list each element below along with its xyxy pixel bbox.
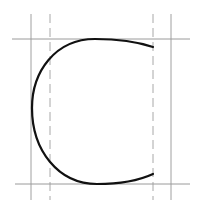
c-curve-diagram (0, 0, 200, 216)
